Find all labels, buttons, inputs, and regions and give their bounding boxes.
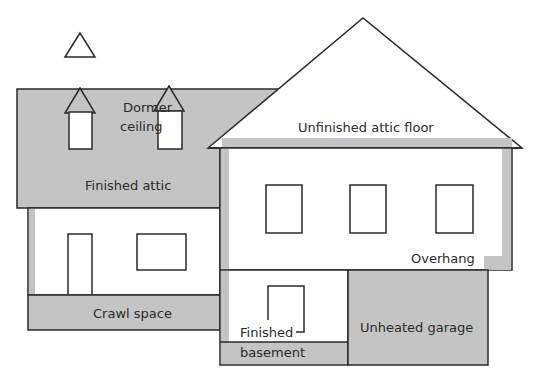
label-dormer-line1: Dormer xyxy=(123,100,173,115)
label-unheated-garage: Unheated garage xyxy=(360,320,473,335)
unheated-garage-region xyxy=(348,270,488,365)
attic-floor-insulation xyxy=(222,138,512,148)
house-cross-section-diagram: Dormer ceiling Finished attic Unfinished… xyxy=(0,0,536,379)
label-unfinished-attic-floor: Unfinished attic floor xyxy=(298,120,434,135)
window-left-wing xyxy=(137,234,186,270)
wall-insulation-left xyxy=(221,149,229,270)
label-finished-basement-line1: Finished xyxy=(240,325,293,340)
window-main-3 xyxy=(436,185,473,233)
door-left-wing xyxy=(68,234,92,295)
overhang-insulation xyxy=(484,256,511,270)
window-main-1 xyxy=(266,185,302,233)
label-dormer-line2: ceiling xyxy=(120,119,162,134)
window-main-2 xyxy=(350,185,386,233)
label-finished-basement-line2: basement xyxy=(240,345,305,360)
left-wing-floor xyxy=(28,208,220,295)
wall-insulation-right xyxy=(502,149,511,270)
label-crawl-space: Crawl space xyxy=(93,306,172,321)
dormer-left xyxy=(65,33,95,57)
label-finished-attic: Finished attic xyxy=(85,178,171,193)
label-overhang: Overhang xyxy=(411,251,475,266)
